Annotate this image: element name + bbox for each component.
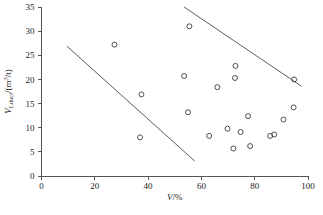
y-tick-label: 5 xyxy=(30,147,35,157)
x-tick-label: 20 xyxy=(90,181,100,191)
y-tick-label: 30 xyxy=(26,26,36,36)
x-tick-label: 80 xyxy=(250,181,260,191)
y-tick-label: 15 xyxy=(26,99,36,109)
y-tick-label: 0 xyxy=(30,171,35,181)
y-tick-label: 35 xyxy=(26,2,36,12)
x-tick-label: 100 xyxy=(301,181,315,191)
x-tick-label: 40 xyxy=(144,181,154,191)
plot-canvas: 020406080100 05101520253035 V/% VLduct/(… xyxy=(0,0,323,215)
chart-background xyxy=(0,0,323,215)
scatter-chart-figure: 020406080100 05101520253035 V/% VLduct/(… xyxy=(0,0,323,215)
y-tick-label: 20 xyxy=(26,75,36,85)
x-tick-label: 0 xyxy=(39,181,44,191)
y-tick-label: 25 xyxy=(26,50,36,60)
x-axis-title: V/% xyxy=(167,192,183,202)
x-tick-label: 60 xyxy=(197,181,207,191)
x-axis-title-text: V/% xyxy=(167,192,183,202)
y-tick-label: 10 xyxy=(26,123,36,133)
